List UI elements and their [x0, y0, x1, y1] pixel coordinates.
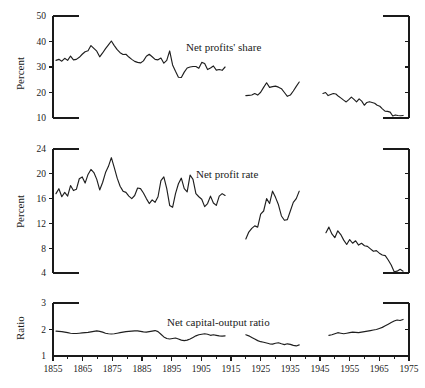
panel2-ylabel-16: 16 — [37, 194, 47, 204]
xlabel-1895: 1895 — [162, 364, 181, 374]
series-label-net-capital-output-ratio: Net capital-output ratio — [167, 316, 270, 328]
xlabel-1965: 1965 — [370, 364, 389, 374]
panel3-ylabel-2: 2 — [41, 325, 46, 335]
series-net-profit-rate-1947-1973 — [326, 227, 403, 272]
panel1-ylabel-50: 50 — [37, 11, 47, 21]
xlabel-1975: 1975 — [400, 364, 419, 374]
series-label-net-profit-rate: Net profit rate — [196, 168, 258, 180]
panel-net-profit-rate: 4812162024Net profit rate — [37, 144, 410, 278]
panel2-ylabel-4: 4 — [41, 268, 46, 278]
panel3-ylabel-1: 1 — [41, 351, 46, 361]
three-panel-time-series-chart: 1020304050Net profits' share4812162024Ne… — [0, 0, 425, 388]
panel3-y-axis-title: Ratio — [14, 316, 26, 340]
panel2-ylabel-12: 12 — [37, 219, 47, 229]
series-net-capital-output-ratio-1920-1938 — [246, 335, 299, 346]
series-net-capital-output-ratio-1948-1973 — [329, 319, 403, 335]
panel2-ylabel-24: 24 — [37, 144, 47, 154]
series-net-profit-rate-1856-1913 — [56, 158, 225, 208]
panel3-ylabel-3: 3 — [41, 298, 46, 308]
xlabel-1955: 1955 — [340, 364, 359, 374]
figure-container: 1020304050Net profits' share4812162024Ne… — [0, 0, 425, 388]
panel1-y-axis-title: Percent — [14, 57, 26, 90]
xlabel-1935: 1935 — [281, 364, 300, 374]
xlabel-1925: 1925 — [251, 364, 270, 374]
xlabel-1885: 1885 — [133, 364, 152, 374]
series-net-profits-share-1920-1938 — [246, 82, 299, 96]
panel1-ylabel-10: 10 — [37, 113, 47, 123]
xlabel-1945: 1945 — [311, 364, 330, 374]
panel1-ylabel-20: 20 — [37, 88, 47, 98]
xlabel-1915: 1915 — [222, 364, 241, 374]
panel2-y-axis-title: Percent — [14, 195, 26, 228]
xlabel-1875: 1875 — [103, 364, 122, 374]
panel1-ylabel-30: 30 — [37, 62, 47, 72]
series-label-net-profits-share: Net profits' share — [186, 41, 261, 53]
xlabel-1855: 1855 — [44, 364, 63, 374]
xlabel-1905: 1905 — [192, 364, 211, 374]
series-net-capital-output-ratio-1856-1913 — [56, 331, 225, 341]
panel1-ylabel-40: 40 — [37, 37, 47, 47]
panel2-ylabel-8: 8 — [41, 244, 46, 254]
panel-net-capital-output-ratio: 1231855186518751885189519051915192519351… — [41, 298, 419, 374]
series-net-profit-rate-1920-1938 — [246, 191, 299, 239]
series-net-profits-share-1946-1973 — [323, 93, 403, 116]
xlabel-1865: 1865 — [73, 364, 92, 374]
panel2-ylabel-20: 20 — [37, 169, 47, 179]
panel-net-profits-share: 1020304050Net profits' share — [37, 11, 410, 123]
